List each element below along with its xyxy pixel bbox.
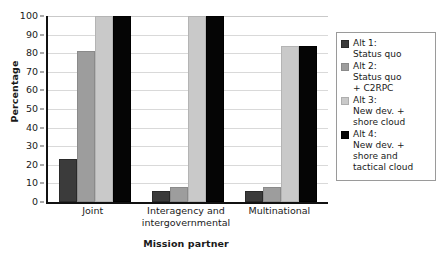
x-axis-tick-label: Interagency and intergovernmental [139, 205, 232, 228]
legend-item: Alt 3: New dev. + shore cloud [341, 95, 431, 128]
bar-group [141, 16, 234, 202]
y-axis-tick-mark [40, 202, 44, 203]
y-axis-tick-mark [40, 16, 44, 17]
bar-groups [48, 16, 328, 202]
legend-item-label: Alt 2: Status quo + C2RPC [353, 61, 401, 94]
legend-swatch-icon [341, 40, 349, 48]
y-axis-tick-mark [40, 183, 44, 184]
y-axis-tick-label: 60 [26, 86, 38, 96]
y-axis-tick-label: 100 [20, 11, 38, 21]
legend-item-label: Alt 3: New dev. + shore cloud [353, 95, 405, 128]
y-axis-tick-label: 90 [26, 30, 38, 40]
bar [152, 191, 170, 202]
y-axis-tick-label: 0 [32, 197, 38, 207]
bar [170, 187, 188, 202]
y-axis-tick-label: 20 [26, 160, 38, 170]
x-axis-tick-label: Joint [46, 205, 139, 228]
y-axis-tick-label: 30 [26, 141, 38, 151]
y-axis-tick-mark [40, 34, 44, 35]
bar [188, 16, 206, 202]
bar [245, 191, 263, 202]
y-axis-tick-labels: 0102030405060708090100 [0, 16, 44, 202]
y-axis-tick-mark [40, 146, 44, 147]
x-axis-tick-label: Multinational [233, 205, 326, 228]
y-axis-tick-mark [40, 71, 44, 72]
y-axis-tick-label: 40 [26, 123, 38, 133]
legend-item-label: Alt 4: New dev. + shore and tactical clo… [353, 129, 413, 173]
y-axis-tick-mark [40, 53, 44, 54]
bar [206, 16, 224, 202]
legend-swatch-icon [341, 97, 349, 105]
legend-item-label: Alt 1: Status quo [353, 38, 401, 60]
y-axis-tick-label: 70 [26, 67, 38, 77]
y-axis-tick-mark [40, 127, 44, 128]
bar-chart-figure: Percentage 0102030405060708090100 JointI… [0, 0, 443, 268]
legend-item: Alt 2: Status quo + C2RPC [341, 61, 431, 94]
chart-legend: Alt 1: Status quoAlt 2: Status quo + C2R… [336, 32, 436, 181]
legend-item: Alt 4: New dev. + shore and tactical clo… [341, 129, 431, 173]
bar [59, 159, 77, 202]
bar-group [48, 16, 141, 202]
bar [77, 51, 95, 202]
bar-group [235, 16, 328, 202]
x-axis-tick-labels: JointInteragency and intergovernmentalMu… [46, 205, 326, 228]
bar [263, 187, 281, 202]
x-axis-title: Mission partner [46, 238, 326, 249]
bar [113, 16, 131, 202]
plot-area [46, 16, 328, 204]
bar [299, 46, 317, 202]
legend-swatch-icon [341, 63, 349, 71]
legend-swatch-icon [341, 131, 349, 139]
bar [95, 16, 113, 202]
y-axis-tick-label: 50 [26, 104, 38, 114]
y-axis-tick-mark [40, 90, 44, 91]
y-axis-tick-label: 10 [26, 179, 38, 189]
y-axis-tick-mark [40, 109, 44, 110]
bar [281, 46, 299, 202]
y-axis-tick-mark [40, 164, 44, 165]
y-axis-tick-label: 80 [26, 48, 38, 58]
legend-item: Alt 1: Status quo [341, 38, 431, 60]
